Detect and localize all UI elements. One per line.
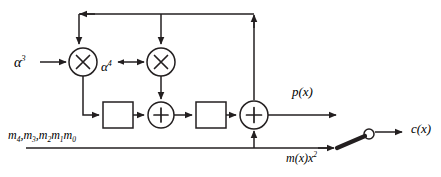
- label-c-of-x: c(x): [411, 122, 431, 135]
- switch-arm[interactable]: [337, 136, 365, 148]
- register-2[interactable]: [196, 102, 226, 128]
- diagram-canvas: [0, 0, 441, 177]
- label-p-of-x: p(x): [292, 85, 313, 98]
- label-message-inputs: m4,m3,m2m1m0: [8, 129, 76, 141]
- circuit-diagram: α3 α4 m4,m3,m2m1m0 p(x) m(x)x2 c(x): [0, 0, 441, 177]
- label-alpha-cubed: α3: [14, 56, 26, 70]
- multiplier-1-output-path: [83, 76, 99, 115]
- register-1[interactable]: [103, 102, 133, 128]
- label-m-of-x-x-squared: m(x)x2: [286, 152, 317, 164]
- label-alpha-fourth: α4: [101, 60, 112, 73]
